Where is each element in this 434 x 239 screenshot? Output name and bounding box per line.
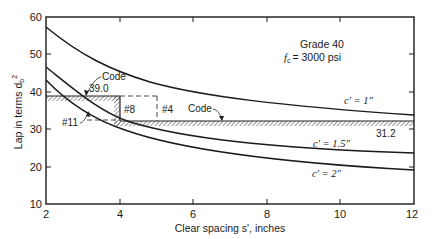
x-axis-label: Clear spacing s', inches — [175, 222, 286, 234]
svg-text:60: 60 — [30, 11, 42, 23]
value-312-label: 31.2 — [376, 128, 396, 139]
svg-text:20: 20 — [30, 161, 42, 173]
bar11-label: #11 — [62, 117, 78, 128]
svg-text:10: 10 — [30, 198, 42, 210]
code-band-31 — [114, 121, 414, 126]
svg-text:12: 12 — [406, 208, 418, 220]
y-axis-label: Lap in terms db2 — [11, 75, 25, 149]
grade-label: Grade 40 — [300, 38, 344, 50]
svg-text:50: 50 — [30, 48, 42, 60]
curve-label-c15: c′ = 1.5″ — [313, 138, 350, 149]
code-label-2: Code — [188, 103, 212, 114]
svg-text:2: 2 — [43, 208, 49, 220]
lap-length-chart: 605040 302010 246 81012 Clear spacing s'… — [0, 0, 434, 239]
curve-label-c1: c′ = 1″ — [344, 95, 374, 106]
svg-text:40: 40 — [30, 86, 42, 98]
svg-text:6: 6 — [190, 208, 196, 220]
svg-text:8: 8 — [264, 208, 270, 220]
x-tick-labels: 246 81012 — [43, 208, 418, 220]
fc-label: fc= 3000 psi — [284, 51, 341, 64]
svg-text:30: 30 — [30, 123, 42, 135]
curve-label-c2: c′ = 2″ — [312, 168, 342, 179]
code-label-1: Code — [102, 71, 126, 82]
value-39-label: 39.0 — [89, 83, 109, 94]
bar8-label: #8 — [124, 104, 136, 115]
bar4-label: #4 — [162, 104, 174, 115]
svg-text:10: 10 — [334, 208, 346, 220]
svg-text:4: 4 — [117, 208, 123, 220]
y-tick-labels: 605040 302010 — [30, 11, 42, 210]
